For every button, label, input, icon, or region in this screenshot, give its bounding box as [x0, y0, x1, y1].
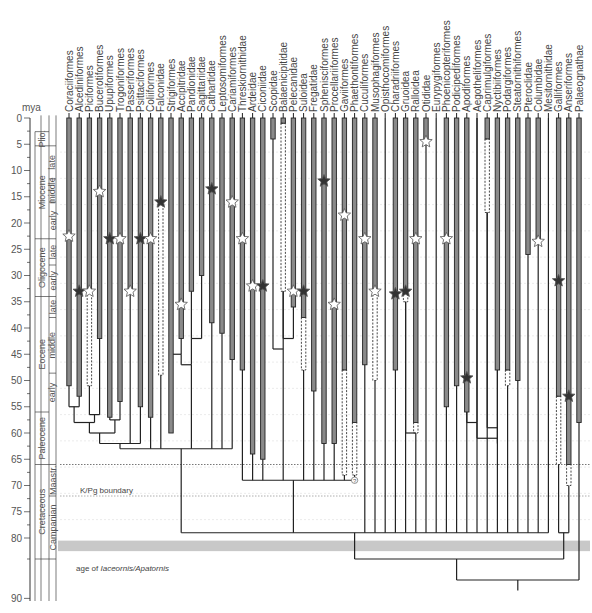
- period-label: early: [48, 382, 58, 402]
- axis-tick-label: 90: [11, 593, 23, 604]
- white-star-icon: [369, 285, 381, 297]
- lineage-bar: [77, 118, 81, 396]
- lineage-bar: [138, 118, 142, 407]
- lineage-bar: [148, 118, 152, 417]
- period-label: late: [48, 245, 58, 260]
- lineage-bar: [556, 118, 560, 396]
- lineage-bar: [189, 118, 193, 291]
- ghost-lineage: [485, 139, 489, 213]
- period-label: Campanian: [48, 504, 58, 550]
- period-label: Paleocene: [37, 417, 47, 460]
- axis-tick-label: 25: [11, 244, 23, 255]
- shaded-age-band: [58, 541, 590, 552]
- lineage-bar: [240, 118, 244, 370]
- lineage-bar: [230, 118, 234, 360]
- axis-tick-label: 75: [11, 506, 23, 517]
- ghost-lineage: [556, 396, 560, 464]
- lineage-bar: [352, 118, 356, 423]
- lineage-bar: [281, 118, 285, 123]
- lineage-bar: [414, 118, 418, 423]
- lineage-bar: [495, 118, 499, 370]
- lineage-bar: [118, 118, 122, 402]
- lineage-bar: [485, 118, 489, 139]
- axis-tick-label: 20: [11, 218, 23, 229]
- lineage-bar: [128, 118, 132, 291]
- shaded-band-label: age of Iaceornis/Apatornis: [76, 564, 169, 573]
- period-label: Oligocene: [37, 247, 47, 288]
- lineage-bar: [210, 118, 214, 323]
- lineage-bar: [97, 118, 101, 339]
- period-label: Cretaceous: [37, 488, 47, 535]
- lineage-bars: ?: [67, 118, 581, 486]
- lineage-bar: [322, 118, 326, 444]
- shaded-band: [58, 541, 590, 552]
- lineage-bar: [67, 118, 71, 386]
- axis-tick-label: 60: [11, 428, 23, 439]
- period-label: late: [48, 155, 58, 170]
- black-star-icon: [155, 196, 167, 208]
- phylogenetic-timetree: mya0510152025303540455055606570758090Pli…: [0, 0, 592, 613]
- lineage-bar: [169, 118, 173, 433]
- lineage-bar: [454, 118, 458, 386]
- lineage-bar: [159, 118, 163, 202]
- period-label: late: [48, 300, 58, 315]
- lineage-bar: [526, 118, 530, 255]
- period-label: early: [48, 210, 58, 230]
- axis-tick-label: 50: [11, 375, 23, 386]
- axis-tick-label: 15: [11, 191, 23, 202]
- lineage-bar: [393, 118, 397, 370]
- taxon-labels: CoraciiformesAlcediniformesPiciformesBuc…: [64, 20, 585, 118]
- period-label: Maastr.: [48, 465, 58, 495]
- ghost-lineage: [281, 123, 285, 291]
- lineage-bar: [108, 118, 112, 417]
- ghost-lineage: [87, 291, 91, 386]
- axis-tick-label: 30: [11, 270, 23, 281]
- axis-tick-label: 5: [16, 139, 22, 150]
- axis-tick-label: 80: [11, 533, 23, 544]
- axis-tick-label: 0: [16, 113, 22, 124]
- axis-tick-label: 45: [11, 349, 23, 360]
- period-label: early: [48, 271, 58, 291]
- lineage-bar: [291, 118, 295, 307]
- lineage-bar: [271, 118, 275, 139]
- time-axis: mya0510152025303540455055606570758090Pli…: [11, 102, 58, 604]
- ghost-lineage: [159, 202, 163, 375]
- axis-tick-label: 70: [11, 480, 23, 491]
- lineage-bar: [199, 118, 203, 276]
- lineage-bar: [403, 118, 407, 291]
- lineage-bar: [536, 118, 540, 244]
- period-label: Plio.: [37, 130, 47, 148]
- lineage-bar: [567, 118, 571, 465]
- white-star-icon: [83, 285, 95, 297]
- axis-tick-label: 65: [11, 454, 23, 465]
- lineage-bar: [220, 118, 224, 333]
- ghost-lineage: [342, 370, 346, 475]
- kpg-boundary-label: K/Pg boundary: [80, 486, 133, 495]
- period-label: middle: [48, 177, 58, 204]
- axis-tick-label: 35: [11, 296, 23, 307]
- axis-tick-label: 55: [11, 401, 23, 412]
- black-star-icon: [399, 285, 411, 297]
- lineage-bar: [342, 118, 346, 370]
- taxon-label: Palaeognathae: [574, 44, 585, 112]
- axis-unit-label: mya: [22, 102, 41, 113]
- lineage-bar: [312, 118, 316, 391]
- lineage-bar: [444, 118, 448, 407]
- lineage-bar: [516, 118, 520, 381]
- ghost-lineage: [567, 465, 571, 486]
- lineage-bar: [373, 118, 377, 291]
- period-label: Miocene: [37, 175, 47, 209]
- lineage-bar: [332, 118, 336, 444]
- lineage-bar: [505, 118, 509, 370]
- ghost-lineage: [414, 423, 418, 434]
- period-label: middle: [48, 332, 58, 359]
- period-label: Eocene: [37, 339, 47, 370]
- lineage-bar: [87, 118, 91, 291]
- axis-tick-label: 40: [11, 323, 23, 334]
- lineage-bar: [577, 118, 581, 423]
- axis-tick-label: 10: [11, 165, 23, 176]
- ghost-lineage: [505, 370, 509, 386]
- lineage-bar: [465, 118, 469, 412]
